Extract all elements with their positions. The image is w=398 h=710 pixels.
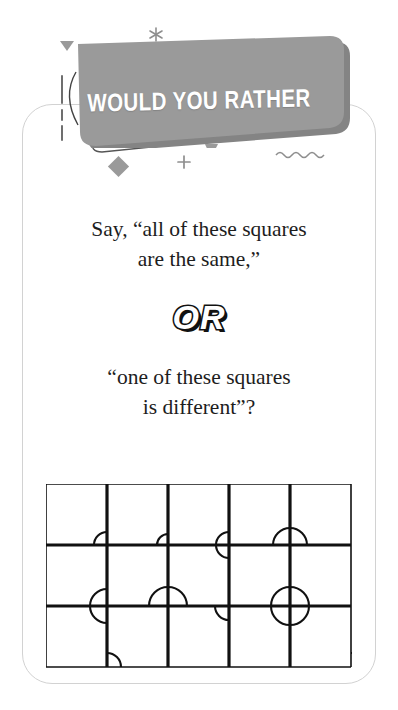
illusion-grid [46, 484, 352, 670]
grid-arc [215, 606, 229, 620]
or-divider: OR [38, 298, 360, 342]
header-banner: WOULD YOU RATHER [0, 18, 398, 148]
option-b-line-2: is different”? [38, 392, 360, 422]
grid-arc [94, 532, 107, 545]
page-root: WOULD YOU RATHER Say, “all of these squa… [0, 0, 398, 710]
banner-tail [205, 144, 218, 148]
grid-arc [216, 532, 229, 545]
or-label: OR [173, 298, 226, 337]
option-a-line-2: are the same,” [38, 244, 360, 274]
grid-arc [157, 534, 168, 545]
illusion-grid-svg [46, 484, 352, 670]
grid-arc [216, 545, 229, 558]
prompt-block: Say, “all of these squares are the same,… [38, 214, 360, 422]
grid-arc [107, 653, 121, 667]
option-b-line-1: “one of these squares [38, 362, 360, 392]
option-a-line-1: Say, “all of these squares [38, 214, 360, 244]
